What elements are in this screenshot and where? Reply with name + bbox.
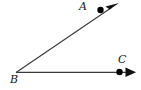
- geometry-canvas: A B C: [0, 0, 141, 90]
- geometry-diagram: A B C: [0, 0, 141, 90]
- ray-ba: [16, 3, 119, 73]
- point-c-dot: [116, 69, 122, 75]
- point-a-dot: [97, 7, 103, 13]
- point-label-c: C: [118, 53, 127, 66]
- ray-ba-line: [16, 7, 112, 72]
- point-label-a: A: [78, 0, 87, 13]
- point-label-b: B: [9, 73, 18, 86]
- arrowhead-bc-icon: [126, 68, 137, 77]
